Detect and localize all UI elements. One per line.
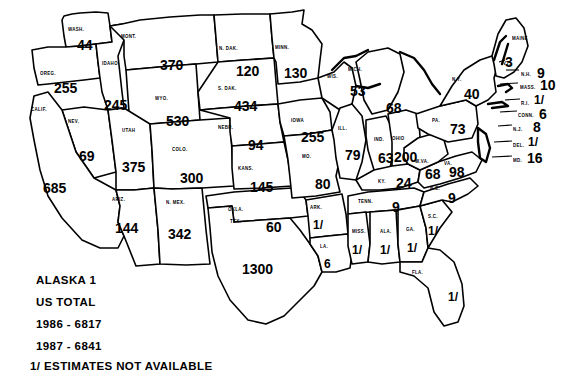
state-value-label: 434 <box>234 98 257 114</box>
state-value-label: 68 <box>386 100 402 116</box>
callout-abbr-label: VT. <box>503 60 510 66</box>
state-value-label: 530 <box>166 113 189 129</box>
callout-abbr-label: DEL. <box>513 142 524 148</box>
state-value-label: 98 <box>449 164 465 180</box>
state-value-label: 68 <box>425 166 441 182</box>
legend-alaska: ALASKA 1 <box>36 274 96 286</box>
state-value-label: 40 <box>464 86 480 102</box>
state-abbr-label: W.VA. <box>415 158 429 164</box>
coast-detail-longisland <box>488 102 508 108</box>
callout-value-label: 1/ <box>534 93 544 107</box>
state-abbr-label: WYO. <box>155 95 168 101</box>
state-abbr-label: ARIZ. <box>112 196 125 202</box>
state-abbr-label: GA. <box>406 226 415 232</box>
state-value-label: 63 <box>378 150 394 166</box>
state-abbr-label: COLO. <box>172 146 188 152</box>
state-value-label: 79 <box>345 147 361 163</box>
state-abbr-label: KANS. <box>238 165 253 171</box>
state-abbr-label: PA. <box>432 117 440 123</box>
callout-abbr-label: N.J. <box>513 126 522 132</box>
state-value-label: 1/ <box>380 243 390 257</box>
callout-abbr-label: N.H. <box>521 71 531 77</box>
state-value-label: 9 <box>448 190 456 206</box>
state-value-label: 300 <box>180 170 203 186</box>
state-shape-northdakota <box>214 14 274 62</box>
state-abbr-label: ILL. <box>338 125 347 131</box>
state-abbr-label: OHIO <box>392 135 405 141</box>
state-abbr-label: WIS. <box>327 73 338 79</box>
us-choropleth-map: WASH.44OREG.255IDAHO245MONT.370WYO.530NE… <box>0 0 575 374</box>
callout-abbr-label: R.I. <box>521 100 529 106</box>
state-value-label: 6 <box>324 257 331 271</box>
state-value-label: 375 <box>122 159 145 175</box>
state-value-label: 9 <box>392 199 400 215</box>
state-abbr-label: N.C. <box>430 185 440 191</box>
state-value-label: 200 <box>394 149 417 165</box>
state-abbr-label: MICH. <box>348 66 362 72</box>
state-value-label: 94 <box>248 137 264 153</box>
callout-abbr-label: CONN. <box>518 112 534 118</box>
state-value-label: 1/ <box>428 224 438 238</box>
state-abbr-label: ALA. <box>380 228 392 234</box>
state-abbr-label: TEX. <box>230 218 241 224</box>
state-abbr-label: MINN. <box>275 44 289 50</box>
state-abbr-label: NEV. <box>68 118 79 124</box>
state-value-label: 60 <box>266 219 282 235</box>
state-value-label: 44 <box>77 37 93 53</box>
callout-abbr-label: MASS. <box>520 84 536 90</box>
state-value-label: 1300 <box>242 261 273 277</box>
legend-footnote: 1/ ESTIMATES NOT AVAILABLE <box>30 360 212 372</box>
state-value-label: 1/ <box>313 218 323 232</box>
state-value-label: 255 <box>301 129 324 145</box>
state-abbr-label: IND. <box>374 136 384 142</box>
state-value-label: 53 <box>350 83 366 99</box>
state-abbr-label: TENN. <box>358 198 373 204</box>
state-abbr-label: N. DAK. <box>219 45 238 51</box>
state-abbr-label: FLA. <box>412 269 423 275</box>
state-value-label: 80 <box>315 176 331 192</box>
callout-abbr-label: MD. <box>513 157 522 163</box>
callout-value-label: 16 <box>527 150 543 166</box>
state-abbr-label: S. DAK. <box>218 85 237 91</box>
state-value-label: 130 <box>284 65 307 81</box>
state-abbr-label: ARK. <box>310 204 322 210</box>
state-abbr-label: IDAHO <box>102 60 118 66</box>
state-abbr-label: MAINE <box>512 35 528 41</box>
state-abbr-label: OKLA. <box>228 206 243 212</box>
state-abbr-label: N.Y. <box>452 76 461 82</box>
state-abbr-label: MISS. <box>352 228 366 234</box>
state-abbr-label: NEBR. <box>218 124 233 130</box>
state-shape-delmarva <box>478 128 490 162</box>
legend-year-1986: 1986 - 6817 <box>36 318 102 330</box>
state-value-label: 24 <box>396 175 412 191</box>
state-value-label: 144 <box>115 220 138 236</box>
state-value-label: 370 <box>160 57 183 73</box>
state-abbr-label: LA. <box>320 243 328 249</box>
state-abbr-label: OREG. <box>40 70 56 76</box>
state-abbr-label: WASH. <box>68 26 84 32</box>
callout-value-label: 1/ <box>528 135 538 149</box>
legend-us-total: US TOTAL <box>36 296 96 308</box>
state-value-label: 1/ <box>407 241 417 255</box>
coast-detail-capecod <box>498 84 512 92</box>
state-abbr-label: KY. <box>378 178 386 184</box>
state-value-label: 120 <box>236 63 259 79</box>
state-value-label: 1/ <box>448 290 458 304</box>
state-abbr-label: MO. <box>302 153 311 159</box>
state-abbr-label: CALIF. <box>31 106 47 112</box>
state-abbr-label: IOWA <box>291 117 304 123</box>
state-abbr-label: S.C. <box>428 213 438 219</box>
state-value-label: 685 <box>43 180 66 196</box>
state-value-label: 1/ <box>352 243 362 257</box>
state-abbr-label: MONT. <box>121 33 136 39</box>
legend-year-1987: 1987 - 6841 <box>36 340 102 352</box>
state-abbr-label: N. MEX. <box>166 199 185 205</box>
state-abbr-label: UTAH <box>122 127 135 133</box>
state-value-label: 342 <box>168 226 191 242</box>
state-value-label: 245 <box>104 97 127 113</box>
state-value-label: 73 <box>450 121 466 137</box>
callout-value-label: 8 <box>533 119 541 135</box>
state-value-label: 69 <box>79 148 95 164</box>
state-value-label: 145 <box>250 179 273 195</box>
state-value-label: 255 <box>54 80 77 96</box>
